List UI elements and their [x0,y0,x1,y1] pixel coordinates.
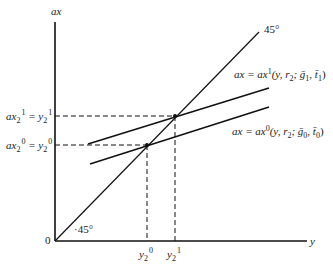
x-tick-y20: y20 [138,246,153,263]
equilibrium-point-1 [173,114,177,118]
ax1-function-label: ax = ax1(y, r2; ḡ1, t̄1) [234,67,326,83]
y-tick-upper: ax21 = y21 [6,108,52,125]
x-axis-label: y [309,235,315,247]
45-degree-label: 45° [264,23,279,35]
origin-label: 0 [45,234,51,246]
y-tick-lower: ax20 = y20 [6,137,52,154]
x-tick-y21: y21 [166,246,181,263]
equilibrium-point-0 [145,143,149,147]
ax0-function-label: ax = ax0(y, r2; ḡ0, t̄0) [232,124,324,140]
keynesian-cross-diagram: ax y 0 45° ·45° ax = ax1(y, r2; ḡ1, t̄1)… [0,0,333,266]
origin-angle-label: ·45° [74,223,93,235]
y-axis-label: ax [51,5,62,17]
45-degree-line [55,32,259,241]
